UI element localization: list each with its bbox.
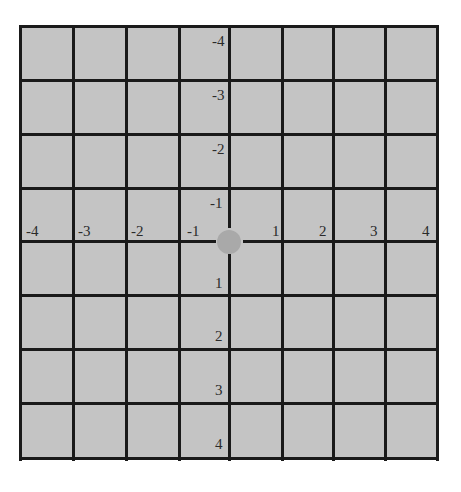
- grid-line-h: [19, 187, 439, 190]
- grid-line-v: [332, 25, 335, 461]
- x-label: -2: [131, 224, 144, 239]
- grid-line-h: [19, 294, 439, 297]
- grid-line-v: [72, 25, 75, 461]
- y-label: -3: [212, 88, 225, 103]
- x-label: 3: [370, 224, 378, 239]
- y-axis-lower: [228, 254, 231, 461]
- x-label: 2: [319, 224, 327, 239]
- x-label: -3: [78, 224, 91, 239]
- x-label: -1: [187, 224, 200, 239]
- grid-line-v: [19, 25, 22, 461]
- y-label: -2: [212, 142, 225, 157]
- y-label: 3: [215, 383, 223, 398]
- grid-line-v: [436, 25, 439, 461]
- origin-dot: [217, 230, 241, 254]
- grid-line-h: [19, 79, 439, 82]
- grid-line-v: [178, 25, 181, 461]
- grid-line-v: [281, 25, 284, 461]
- x-label: 1: [272, 224, 280, 239]
- grid-line-v: [125, 25, 128, 461]
- y-label: -4: [212, 34, 225, 49]
- y-label: 4: [215, 437, 223, 452]
- x-axis-left: [19, 240, 216, 243]
- grid-line-h: [19, 133, 439, 136]
- y-axis-upper: [228, 25, 231, 228]
- x-axis-right: [243, 240, 439, 243]
- grid-line-h: [19, 402, 439, 405]
- grid-line-h: [19, 457, 439, 460]
- x-label: 4: [422, 224, 430, 239]
- grid-line-h: [19, 25, 439, 28]
- y-label: 2: [215, 329, 223, 344]
- y-label: 1: [215, 276, 223, 291]
- x-label: -4: [26, 224, 39, 239]
- grid-line-h: [19, 348, 439, 351]
- grid-line-v: [384, 25, 387, 461]
- y-label: -1: [210, 196, 223, 211]
